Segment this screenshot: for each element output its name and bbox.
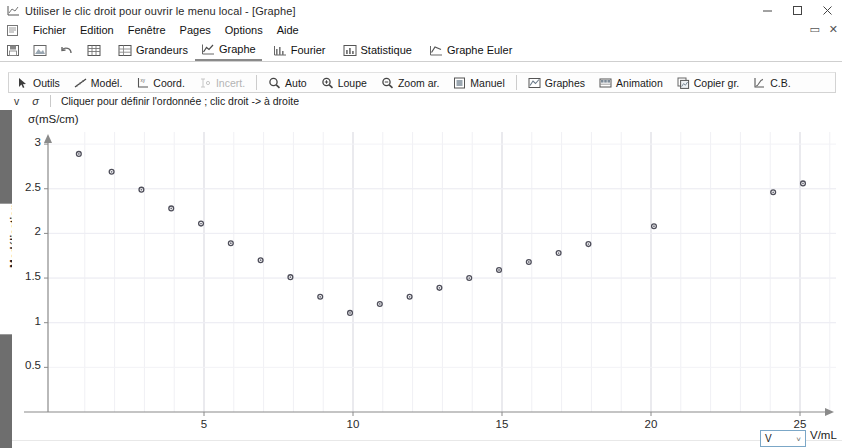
tab-grandeurs-label: Grandeurs xyxy=(136,44,188,56)
tab-statistique[interactable]: Statistique xyxy=(337,40,418,60)
image-button[interactable] xyxy=(27,40,53,60)
gridlines xyxy=(48,132,836,412)
maximize-button[interactable] xyxy=(782,0,812,21)
tool-animation[interactable]: Animation xyxy=(592,74,670,91)
tab-graphe-euler-label: Graphe Euler xyxy=(447,44,512,56)
doc-restore-button[interactable]: ▭ xyxy=(809,23,819,36)
title-bar: Utiliser le clic droit pour ouvrir le me… xyxy=(0,0,842,21)
tool-auto[interactable]: Auto xyxy=(261,74,314,91)
tool-coord[interactable]: xy Coord. xyxy=(129,74,192,91)
graph-canvas[interactable]: 0.511.522.53 510152025 σ(mS/cm) xyxy=(12,110,842,448)
data-point-center xyxy=(230,242,232,244)
data-point-center xyxy=(200,223,202,225)
tool-loupe[interactable]: Loupe xyxy=(314,74,374,91)
data-point-center xyxy=(409,296,411,298)
data-point-center xyxy=(290,276,292,278)
tool-model[interactable]: Modél. xyxy=(67,74,130,91)
animation-icon xyxy=(599,77,612,89)
model-curve-icon xyxy=(74,77,87,89)
x-axis-variable-value: V xyxy=(761,433,772,444)
menu-item-pages[interactable]: Pages xyxy=(173,23,218,37)
data-point-center xyxy=(141,189,143,191)
data-point-center xyxy=(319,296,321,298)
table-icon xyxy=(87,44,101,57)
data-point-center xyxy=(170,207,172,209)
tool-copier-graphe-label: Copier gr. xyxy=(694,77,740,89)
data-point-center xyxy=(498,269,500,271)
table-button[interactable] xyxy=(81,40,107,60)
data-point-center xyxy=(78,153,80,155)
menu-item-aide[interactable]: Aide xyxy=(270,23,306,37)
hint-message: Cliquer pour définir l'ordonnée ; clic d… xyxy=(55,95,299,107)
plot-area[interactable] xyxy=(12,110,842,448)
euler-chart-icon xyxy=(429,44,443,57)
undo-button[interactable] xyxy=(54,40,80,60)
y-axis-label: σ(mS/cm) xyxy=(28,113,79,125)
menu-item-fenetre[interactable]: Fenêtre xyxy=(121,23,173,37)
graph-toolbar: Outils Modél. xy Coord. xyxy=(8,72,836,93)
window-controls xyxy=(752,0,842,21)
tool-model-label: Modél. xyxy=(91,77,123,89)
x-axis-variable-select[interactable]: V ˅ xyxy=(760,430,806,447)
tool-incert-label: Incert. xyxy=(216,77,245,89)
coord-icon: xy xyxy=(136,77,149,89)
table-grid-icon xyxy=(118,44,132,57)
doc-close-button[interactable]: ✕ xyxy=(829,23,838,36)
tool-zoom-arriere-label: Zoom ar. xyxy=(398,77,439,89)
data-point-center xyxy=(802,182,804,184)
cb-icon xyxy=(753,77,766,89)
tab-grandeurs[interactable]: Grandeurs xyxy=(112,40,194,60)
data-point-center xyxy=(468,277,470,279)
menu-item-edition[interactable]: Edition xyxy=(73,23,121,37)
tab-fourier[interactable]: Fourier xyxy=(267,40,332,60)
data-point-center xyxy=(439,287,441,289)
tool-outils-label: Outils xyxy=(33,77,60,89)
x-tick-label: 25 xyxy=(788,418,812,430)
tool-outils[interactable]: Outils xyxy=(9,74,67,91)
manual-icon xyxy=(453,77,466,89)
y-tick-label: 2 xyxy=(15,225,41,237)
axis-variable-sigma[interactable]: σ xyxy=(25,95,46,107)
axes xyxy=(24,134,834,416)
data-point-center xyxy=(349,312,351,314)
image-icon xyxy=(33,44,47,57)
tool-incert[interactable]: Incert. xyxy=(192,74,252,91)
tool-manuel-label: Manuel xyxy=(470,77,504,89)
tool-graphes[interactable]: Graphes xyxy=(521,74,592,91)
zoom-out-icon xyxy=(381,77,394,89)
hint-bar: v σ Cliquer pour définir l'ordonnée ; cl… xyxy=(8,93,834,109)
loupe-icon xyxy=(321,77,334,89)
x-tick-label: 15 xyxy=(490,418,514,430)
x-tick-label: 10 xyxy=(341,418,365,430)
toolbar-divider-1 xyxy=(256,75,257,90)
tab-graphe-euler[interactable]: Graphe Euler xyxy=(423,40,518,60)
tool-copier-graphe[interactable]: Copier gr. xyxy=(670,74,747,91)
copy-graph-icon xyxy=(677,77,690,89)
window-title: Utiliser le clic droit pour ouvrir le me… xyxy=(25,5,296,17)
data-point-center xyxy=(528,261,530,263)
tool-manuel[interactable]: Manuel xyxy=(446,74,511,91)
data-point-center xyxy=(588,243,590,245)
tool-auto-label: Auto xyxy=(285,77,307,89)
ribbon-bar: Grandeurs Graphe xyxy=(0,39,842,62)
menu-item-options[interactable]: Options xyxy=(218,23,270,37)
left-rail: Modélisation xyxy=(0,110,12,448)
close-button[interactable] xyxy=(812,0,842,21)
minimize-button[interactable] xyxy=(752,0,782,21)
bars-icon xyxy=(273,44,287,57)
x-tick-label: 5 xyxy=(192,418,216,430)
data-point-center xyxy=(260,259,262,261)
tab-graphe[interactable]: Graphe xyxy=(195,39,262,61)
y-tick-label: 0.5 xyxy=(15,359,41,371)
svg-text:xy: xy xyxy=(141,78,146,83)
menu-item-fichier[interactable]: Fichier xyxy=(26,23,73,37)
axis-variable-v[interactable]: v xyxy=(8,95,25,107)
graphs-icon xyxy=(528,77,541,89)
save-button[interactable] xyxy=(0,40,26,60)
magnifier-icon xyxy=(268,77,281,89)
tool-zoom-arriere[interactable]: Zoom ar. xyxy=(374,74,446,91)
status-divider xyxy=(12,440,842,441)
tab-statistique-label: Statistique xyxy=(361,44,412,56)
tool-cb[interactable]: C.B. xyxy=(746,74,797,91)
hint-divider xyxy=(50,95,51,107)
